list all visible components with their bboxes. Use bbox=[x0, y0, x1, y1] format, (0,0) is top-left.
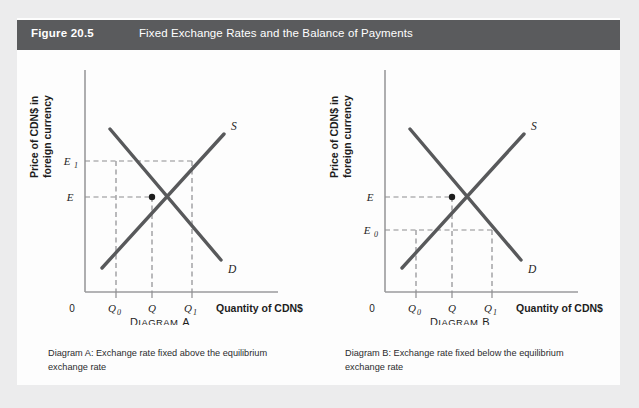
diagram-a-origin-label: 0 bbox=[69, 303, 75, 314]
diagram-a-demand-label: D bbox=[227, 263, 237, 275]
diagram-b-supply-label: S bbox=[531, 120, 537, 132]
diagram-a-ylabel-line2: foreign currency bbox=[41, 95, 53, 178]
diagram-b-xlabel: Quantity of CDN$ bbox=[516, 302, 603, 314]
figure-title: Fixed Exchange Rates and the Balance of … bbox=[139, 27, 413, 39]
diagram-b-demand-label: D bbox=[527, 263, 537, 275]
diagram-b-supply-curve bbox=[402, 134, 524, 268]
diagram-a-xtick-q1-sub: 1 bbox=[193, 308, 197, 317]
diagram-b-ytick-e: E bbox=[366, 191, 374, 203]
diagram-b-origin-label: 0 bbox=[369, 303, 375, 314]
diagram-b-ytick-e0: E bbox=[363, 224, 371, 236]
diagram-b-ylabel-line2: foreign currency bbox=[341, 95, 353, 178]
diagram-b-xtick-q: Q bbox=[448, 302, 456, 314]
diagram-a-equilibrium-point bbox=[149, 194, 155, 200]
diagram-a-subtitle: DIAGRAMA bbox=[130, 316, 190, 325]
diagram-b-equilibrium-point bbox=[449, 194, 455, 200]
diagram-b-xtick-q0: Q bbox=[408, 302, 416, 314]
diagram-b-caption: Diagram B: Exchange rate fixed below the… bbox=[345, 347, 585, 375]
diagram-a-supply-curve bbox=[102, 134, 224, 268]
diagram-a-xtick-q1: Q bbox=[184, 302, 192, 314]
diagram-a-caption: Diagram A: Exchange rate fixed above the… bbox=[48, 347, 288, 375]
diagram-b-xtick-q1: Q bbox=[484, 302, 492, 314]
diagram-a-xtick-q0-sub: 0 bbox=[117, 308, 121, 317]
diagram-a-ytick-e1: E bbox=[63, 155, 71, 167]
diagram-a-supply-label: S bbox=[231, 120, 237, 132]
diagram-b-ylabel-line1: Price of CDN$ in bbox=[328, 96, 340, 178]
diagram-a-ytick-e1-sub: 1 bbox=[74, 161, 78, 170]
figure-number: Figure 20.5 bbox=[31, 27, 94, 39]
diagram-a-xlabel: Quantity of CDN$ bbox=[216, 302, 303, 314]
diagram-a-xtick-q0: Q bbox=[108, 302, 116, 314]
figure-page: Figure 20.5 Fixed Exchange Rates and the… bbox=[0, 0, 639, 408]
diagram-a: Price of CDN$ in foreign currency S D E … bbox=[20, 60, 320, 325]
diagram-b-xtick-q0-sub: 0 bbox=[417, 308, 421, 317]
diagram-a-xtick-q: Q bbox=[148, 302, 156, 314]
diagram-b: Price of CDN$ in foreign currency S D E … bbox=[320, 60, 620, 325]
diagram-a-ytick-e: E bbox=[66, 191, 74, 203]
diagram-a-ylabel-line1: Price of CDN$ in bbox=[28, 96, 40, 178]
diagram-b-xtick-q1-sub: 1 bbox=[493, 308, 497, 317]
diagram-b-subtitle: DIAGRAMB bbox=[430, 316, 490, 325]
diagram-b-ytick-e0-sub: 0 bbox=[374, 230, 378, 239]
